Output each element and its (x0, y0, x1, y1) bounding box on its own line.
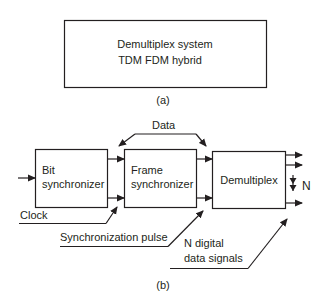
panel-b: Bit synchronizer Frame synchronizer Demu… (18, 119, 311, 291)
caption-b: (b) (156, 279, 169, 291)
caption-a: (a) (156, 94, 169, 106)
data-label: Data (152, 119, 176, 131)
demux-label: Demultiplex (220, 174, 278, 186)
clock-label: Clock (20, 209, 48, 221)
box-a-line1: Demultiplex system (117, 38, 212, 50)
data-arrow-right-icon (196, 134, 206, 146)
data-arrow-left-icon (119, 134, 135, 146)
n-digital-arrow-icon (248, 219, 287, 269)
n-down-arrow-icon (290, 175, 297, 191)
bit-sync-line2: synchronizer (42, 178, 105, 190)
diagram-canvas: Demultiplex system TDM FDM hybrid (a) Bi… (0, 0, 325, 297)
n-label: N (302, 179, 311, 193)
n-digital-line2: data signals (184, 252, 243, 264)
panel-a: Demultiplex system TDM FDM hybrid (a) (65, 21, 267, 107)
n-digital-line1: N digital (184, 237, 224, 249)
sync-pulse-label: Synchronization pulse (60, 231, 168, 243)
frame-sync-line1: Frame (131, 164, 163, 176)
clock-arrow-icon (106, 207, 117, 224)
box-a-line2: TDM FDM hybrid (118, 54, 202, 66)
bit-sync-line1: Bit (42, 164, 55, 176)
frame-sync-line2: synchronizer (131, 178, 194, 190)
